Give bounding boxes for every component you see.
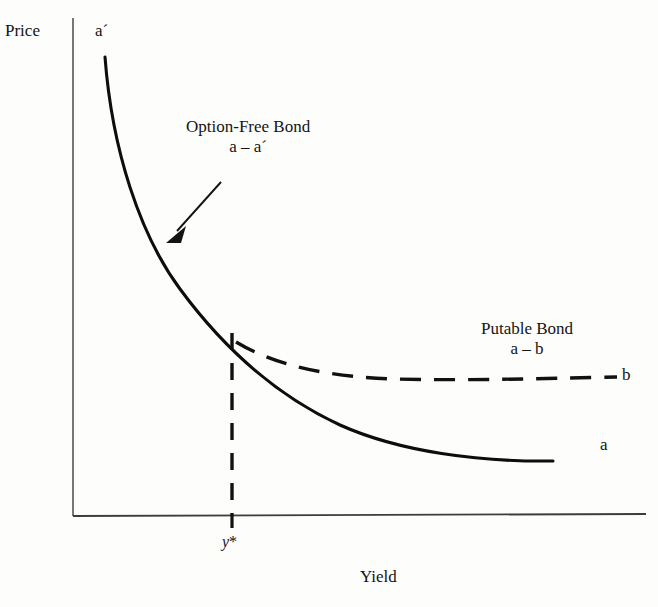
annotation-putable-bond: Putable Bond a – b xyxy=(481,320,573,358)
annotation-putable-title: Putable Bond xyxy=(481,319,573,338)
x-axis-line xyxy=(73,514,646,516)
y-star-asterisk: * xyxy=(229,533,237,550)
annotation-option-free-bond: Option-Free Bond a – a´ xyxy=(186,118,310,156)
annotation-putable-code: a – b xyxy=(481,340,573,358)
x-tick-label-y-star: y* xyxy=(222,534,237,551)
curve-start-label-a-prime: a´ xyxy=(95,22,108,40)
option-free-bond-arrow xyxy=(166,182,221,243)
curve-end-label-a: a xyxy=(600,436,608,454)
annotation-option-free-title: Option-Free Bond xyxy=(186,117,310,136)
curve-end-label-b: b xyxy=(622,366,631,384)
chart-canvas xyxy=(0,0,658,607)
price-yield-chart: Price Yield a´ a b Option-Free Bond a – … xyxy=(0,0,658,607)
annotation-option-free-code: a – a´ xyxy=(186,138,310,156)
x-axis-label: Yield xyxy=(360,568,397,586)
y-axis-label: Price xyxy=(5,22,40,40)
option-free-bond-curve xyxy=(105,57,553,461)
